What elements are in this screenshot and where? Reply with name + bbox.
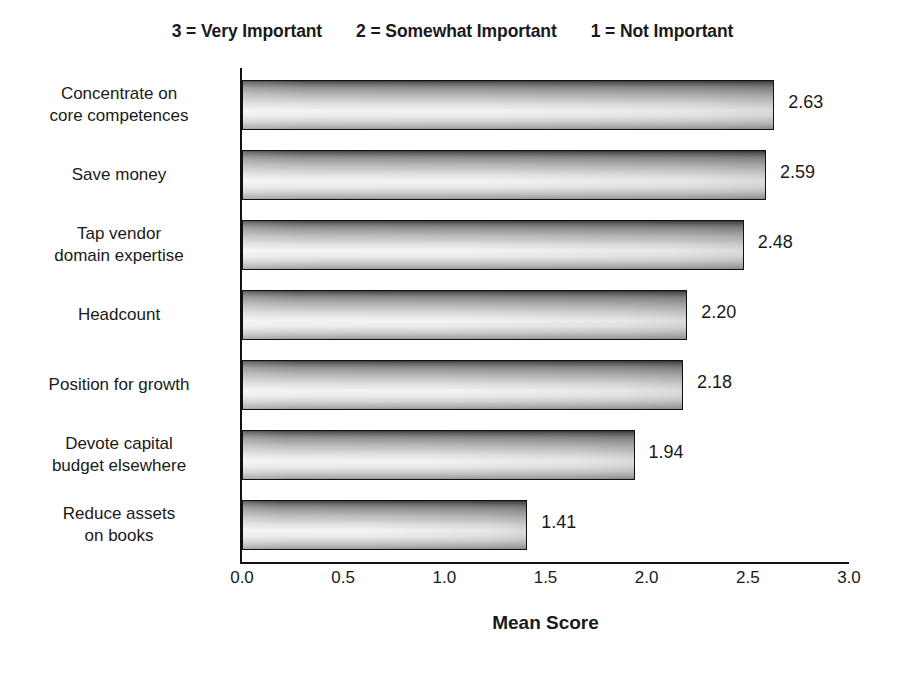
plot-area: Concentrate oncore competences2.63Save m… xyxy=(242,68,849,562)
category-label: Save money xyxy=(14,164,224,186)
x-tick-label: 1.5 xyxy=(511,568,581,588)
bar xyxy=(242,150,766,200)
x-tick-label: 3.0 xyxy=(814,568,884,588)
bar-row: Headcount2.20 xyxy=(242,290,849,340)
x-tick-label: 0.5 xyxy=(308,568,378,588)
bar-value-label: 2.48 xyxy=(758,232,793,253)
bar xyxy=(242,80,774,130)
bar xyxy=(242,500,527,550)
x-axis-title: Mean Score xyxy=(242,612,849,634)
category-label: Position for growth xyxy=(14,374,224,396)
category-label: Reduce assetson books xyxy=(14,503,224,547)
bar-value-label: 1.94 xyxy=(649,442,684,463)
legend-key-3: 3 = Very Important xyxy=(172,21,322,42)
bar-row: Concentrate oncore competences2.63 xyxy=(242,80,849,130)
bar-row: Reduce assetson books1.41 xyxy=(242,500,849,550)
chart-title: 3 = Very Important2 = Somewhat Important… xyxy=(0,21,905,42)
bar xyxy=(242,220,744,270)
bar-value-label: 2.63 xyxy=(788,92,823,113)
category-label: Devote capitalbudget elsewhere xyxy=(14,433,224,477)
x-axis-line xyxy=(240,562,849,564)
bar xyxy=(242,430,635,480)
bar xyxy=(242,290,687,340)
bar-row: Save money2.59 xyxy=(242,150,849,200)
bar-value-label: 2.18 xyxy=(697,372,732,393)
x-tick-label: 0.0 xyxy=(207,568,277,588)
category-label: Headcount xyxy=(14,304,224,326)
legend-key-1: 1 = Not Important xyxy=(591,21,734,42)
x-tick-label: 2.5 xyxy=(713,568,783,588)
bar-row: Position for growth2.18 xyxy=(242,360,849,410)
x-tick-label: 1.0 xyxy=(409,568,479,588)
bar-value-label: 2.59 xyxy=(780,162,815,183)
legend-key-2: 2 = Somewhat Important xyxy=(356,21,557,42)
bar-row: Devote capitalbudget elsewhere1.94 xyxy=(242,430,849,480)
bar-value-label: 2.20 xyxy=(701,302,736,323)
category-label: Concentrate oncore competences xyxy=(14,83,224,127)
category-label: Tap vendordomain expertise xyxy=(14,223,224,267)
bar xyxy=(242,360,683,410)
bar-value-label: 1.41 xyxy=(541,512,576,533)
bar-row: Tap vendordomain expertise2.48 xyxy=(242,220,849,270)
x-tick-label: 2.0 xyxy=(612,568,682,588)
